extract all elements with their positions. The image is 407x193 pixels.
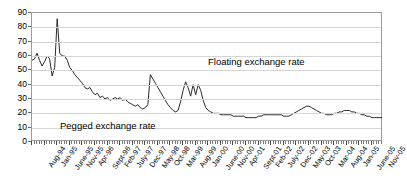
y-tick-label-90: 90 xyxy=(18,8,27,17)
gridline-80 xyxy=(32,27,381,28)
y-tick-label-30: 30 xyxy=(18,94,27,103)
annotation-pegged-exchange-rate: Pegged exchange rate xyxy=(60,120,156,131)
y-tick-label-50: 50 xyxy=(18,65,27,74)
y-tick-label-10: 10 xyxy=(18,123,27,132)
y-tick-label-40: 40 xyxy=(18,80,27,89)
gridline-50 xyxy=(32,70,381,71)
annotation-floating-exchange-rate: Floating exchange rate xyxy=(208,56,305,67)
x-axis-labels: Aug-94Jan-95June-95Nov-95Apr-96Sept-96Fe… xyxy=(0,141,396,193)
y-tick-label-80: 80 xyxy=(18,22,27,31)
gridline-30 xyxy=(32,99,381,100)
gridline-40 xyxy=(32,85,381,86)
gridline-20 xyxy=(32,113,381,114)
y-tick-label-60: 60 xyxy=(18,51,27,60)
gridline-60 xyxy=(32,56,381,57)
y-tick-label-20: 20 xyxy=(18,108,27,117)
gridline-70 xyxy=(32,42,381,43)
y-tick-label-70: 70 xyxy=(18,37,27,46)
